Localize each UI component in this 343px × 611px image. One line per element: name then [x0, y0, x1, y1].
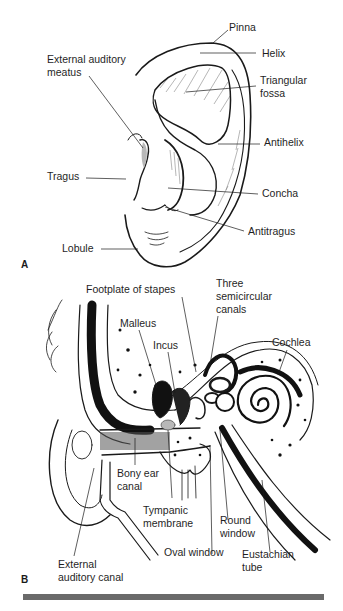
- label-external-auditory-canal-line1: External: [58, 558, 97, 571]
- label-malleus: Malleus: [120, 317, 156, 330]
- label-tympanic-membrane-line2: membrane: [143, 517, 193, 530]
- label-footplate-of-stapes: Footplate of stapes: [86, 283, 175, 296]
- label-bony-ear-canal-line2: canal: [117, 480, 142, 493]
- label-antihelix: Antihelix: [264, 136, 304, 149]
- label-triangular-fossa-line1: Triangular: [260, 74, 307, 87]
- label-semicircular-canals-line2: semicircular: [216, 290, 272, 303]
- label-external-auditory-meatus-line1: External auditory: [47, 53, 126, 66]
- panel-letter-a: A: [21, 259, 28, 270]
- panel-letter-b: B: [21, 574, 28, 585]
- label-tympanic-membrane-line1: Tympanic: [143, 504, 188, 517]
- label-round-window-line1: Round: [220, 514, 251, 527]
- label-helix: Helix: [262, 47, 285, 60]
- label-oval-window: Oval window: [164, 546, 224, 559]
- label-lobule: Lobule: [62, 242, 94, 255]
- label-external-auditory-meatus-line2: meatus: [47, 66, 81, 79]
- label-pinna: Pinna: [229, 21, 256, 34]
- label-semicircular-canals-line1: Three: [216, 277, 243, 290]
- label-external-auditory-canal-line2: auditory canal: [58, 571, 123, 584]
- label-tragus: Tragus: [47, 170, 79, 183]
- label-round-window-line2: window: [220, 527, 255, 540]
- label-triangular-fossa-line2: fossa: [260, 87, 285, 100]
- label-incus: Incus: [153, 339, 178, 352]
- label-eustachian-tube-line2: tube: [242, 561, 262, 574]
- label-eustachian-tube-line1: Eustachian: [242, 548, 294, 561]
- label-semicircular-canals-line3: canals: [216, 303, 246, 316]
- label-antitragus: Antitragus: [248, 225, 295, 238]
- label-cochlea: Cochlea: [272, 336, 311, 349]
- label-concha: Concha: [262, 187, 298, 200]
- label-bony-ear-canal-line1: Bony ear: [117, 467, 159, 480]
- bottom-rule: [23, 594, 324, 600]
